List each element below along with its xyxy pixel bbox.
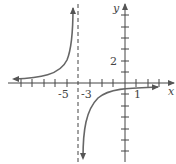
graph-canvas: -5 -3 1 2 x y bbox=[0, 0, 176, 164]
curve-left-branch bbox=[14, 8, 73, 79]
curve-right-branch bbox=[83, 87, 158, 158]
graph: -5 -3 1 2 x y bbox=[0, 0, 176, 164]
tick-label-neg3: -3 bbox=[81, 88, 92, 101]
tick-label-1: 1 bbox=[134, 88, 141, 101]
tick-label-neg5: -5 bbox=[58, 88, 69, 101]
tick-label-2: 2 bbox=[110, 55, 117, 68]
x-axis-label: x bbox=[168, 85, 175, 98]
y-axis-label: y bbox=[112, 2, 120, 15]
arrow-left-icon bbox=[12, 76, 19, 82]
arrow-down-icon bbox=[80, 153, 86, 160]
